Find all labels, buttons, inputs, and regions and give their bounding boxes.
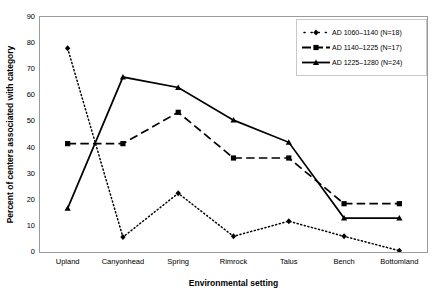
legend-item-label: AD 1140–1225 (N=17) (331, 44, 402, 51)
y-tick-label: 40 (15, 143, 35, 153)
legend-item: AD 1140–1225 (N=17) (301, 40, 423, 55)
y-tick-label: 90 (15, 12, 35, 22)
diamond-marker (341, 233, 346, 239)
series-3 (65, 74, 403, 221)
y-axis-tick-labels: 0102030405060708090 (14, 16, 35, 253)
chart-figure: Percent of centers associated with categ… (0, 0, 447, 297)
y-tick-label: 60 (15, 90, 35, 100)
x-axis-tick-labels: UplandCanyonheadSpringRimrockTalusBenchB… (39, 257, 428, 271)
legend-key-diamond (301, 26, 331, 39)
legend-item-label: AD 1060–1140 (N=18) (331, 29, 402, 36)
y-tick-label: 30 (15, 169, 35, 179)
y-tick-label: 80 (15, 38, 35, 48)
y-tick-label: 0 (15, 247, 35, 257)
y-tick-label: 10 (15, 221, 35, 231)
x-axis-title: Environmental setting (39, 278, 428, 288)
y-tick-label: 70 (15, 64, 35, 74)
series-1 (65, 45, 402, 252)
square-marker (286, 155, 291, 160)
legend-key-triangle (301, 56, 331, 69)
diamond-marker (397, 248, 402, 252)
diamond-marker (286, 218, 291, 224)
square-marker (313, 45, 318, 50)
square-marker (397, 201, 402, 206)
chart-legend: AD 1060–1140 (N=18)AD 1140–1225 (N=17)AD… (296, 19, 427, 76)
series-2 (65, 110, 402, 207)
x-tick-label-bottomland: Bottomland (359, 257, 439, 266)
legend-key-square (301, 41, 331, 54)
legend-item: AD 1060–1140 (N=18) (301, 25, 423, 40)
square-marker (341, 201, 346, 206)
square-marker (120, 141, 125, 146)
square-marker (176, 110, 181, 115)
legend-item: AD 1225–1280 (N=24) (301, 55, 423, 70)
square-marker (231, 155, 236, 160)
series-line (68, 77, 400, 218)
diamond-marker (65, 45, 70, 51)
triangle-marker (65, 205, 71, 211)
y-tick-label: 50 (15, 116, 35, 126)
y-tick-label: 20 (15, 195, 35, 205)
diamond-marker (313, 30, 318, 36)
square-marker (65, 141, 70, 146)
legend-item-label: AD 1225–1280 (N=24) (331, 59, 402, 66)
series-line (68, 48, 400, 250)
